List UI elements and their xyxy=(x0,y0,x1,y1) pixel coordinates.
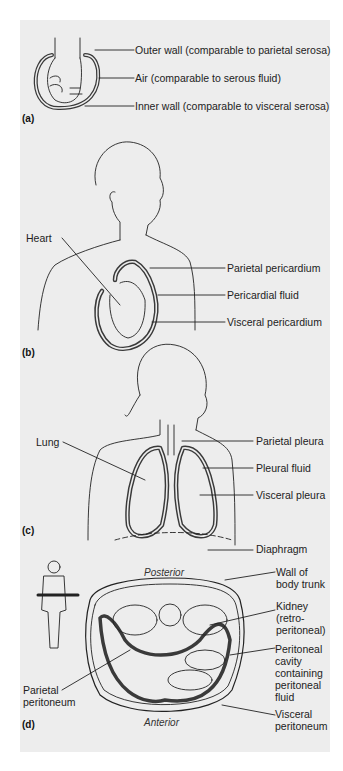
label-parietal-pleura: Parietal pleura xyxy=(256,435,324,447)
label-lung: Lung xyxy=(36,436,59,448)
panel-tag-d: (d) xyxy=(22,719,35,730)
label-visceral-pericardium: Visceral pericardium xyxy=(227,316,322,328)
label-wall-of-body-trunk: Wall of body trunk xyxy=(276,566,332,590)
label-posterior: Posterior xyxy=(144,567,184,578)
panel-tag-b: (b) xyxy=(22,347,35,358)
label-visceral-pleura: Visceral pleura xyxy=(256,489,325,501)
label-inner-wall: Inner wall (comparable to visceral seros… xyxy=(135,100,329,112)
label-peritoneal-cavity: Peritoneal cavity containing peritoneal … xyxy=(275,643,333,703)
label-pleural-fluid: Pleural fluid xyxy=(256,462,311,474)
label-kidney: Kidney (retro-peritoneal) xyxy=(276,600,330,636)
label-pericardial-fluid: Pericardial fluid xyxy=(227,289,299,301)
panel-tag-a: (a) xyxy=(22,113,34,124)
label-heart: Heart xyxy=(26,232,52,244)
label-parietal-pericardium: Parietal pericardium xyxy=(227,262,320,274)
label-parietal-peritoneum: Parietal peritoneum xyxy=(23,684,79,708)
woman-lungs-icon xyxy=(63,344,253,550)
label-air: Air (comparable to serous fluid) xyxy=(135,72,281,84)
fist-balloon-icon xyxy=(36,38,134,108)
label-visceral-peritoneum: Visceral peritoneum xyxy=(275,708,333,732)
label-anterior: Anterior xyxy=(144,717,179,728)
label-diaphragm: Diaphragm xyxy=(256,543,307,555)
boy-heart-icon xyxy=(38,142,225,349)
panel-tag-c: (c) xyxy=(22,525,34,536)
label-outer-wall: Outer wall (comparable to parietal seros… xyxy=(135,44,331,56)
